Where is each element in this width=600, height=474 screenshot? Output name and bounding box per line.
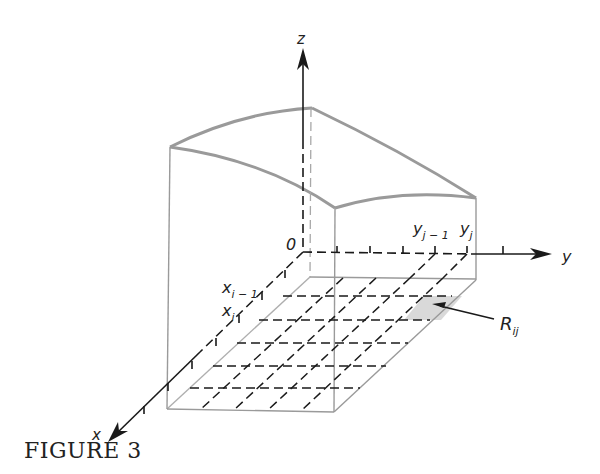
y-tick-labels: yj − 1 yj — [412, 219, 473, 242]
z-axis: z — [296, 30, 309, 252]
y-axis: y — [303, 246, 572, 266]
z-axis-label: z — [296, 30, 306, 48]
subrectangle-label: Rij — [500, 313, 520, 338]
surface-curves — [170, 108, 476, 208]
double-integral-diagram: z y x 0 xi − 1 xi yj − 1 — [0, 0, 600, 474]
subrectangle-pointer: Rij — [432, 302, 520, 338]
figure-caption: FIGURE 3 — [24, 438, 142, 463]
svg-text:xi: xi — [221, 301, 235, 324]
svg-text:yj − 1: yj − 1 — [412, 219, 449, 242]
subrectangle-rij — [404, 296, 462, 320]
y-axis-label: y — [561, 247, 572, 266]
x-axis: x — [91, 252, 303, 444]
solid-box — [167, 147, 476, 412]
origin-label: 0 — [286, 235, 296, 254]
svg-text:yj: yj — [459, 219, 473, 242]
svg-text:xi − 1: xi − 1 — [221, 278, 258, 301]
grid-lines-y-upper — [410, 254, 467, 278]
